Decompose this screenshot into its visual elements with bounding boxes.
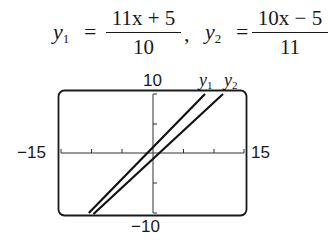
ymin-label: −10 (131, 217, 160, 237)
line-y2 (94, 94, 224, 214)
graph-window (0, 0, 329, 246)
curve-label-y2: y2 (224, 70, 238, 91)
ymax-label: 10 (143, 71, 162, 91)
xmin-label: −15 (17, 143, 46, 163)
xmax-label: 15 (251, 143, 270, 163)
curve-label-y1: y1 (199, 70, 213, 91)
